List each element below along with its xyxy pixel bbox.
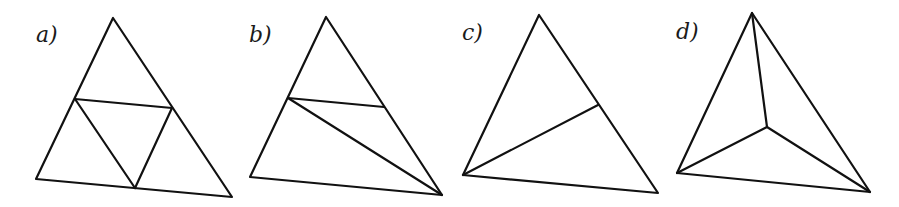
inner-segments-c [463,105,598,175]
outer-triangle-a [36,18,232,197]
inner-segments-d [677,13,870,192]
outer-triangle-b [250,17,442,195]
inner-segment [767,127,870,192]
figure-label-a: a) [36,22,58,47]
figure-a: a) [36,18,232,197]
inner-segment [135,108,172,188]
figure-label-c: c) [462,20,483,45]
figure-c: c) [462,15,658,193]
inner-segment [75,99,135,188]
diagram-canvas: a) b) c) d) [0,0,899,207]
inner-segment [288,98,384,107]
outer-triangle-d [677,13,870,192]
inner-segments-b [288,98,442,195]
inner-segment [75,99,172,108]
figure-d: d) [676,13,870,192]
figure-b: b) [249,17,442,195]
triangle-partitions-diagram: a) b) c) d) [0,0,899,207]
inner-segment [752,13,767,127]
inner-segments-a [75,99,172,188]
outer-triangle-c [463,15,658,193]
inner-segment [463,105,598,175]
inner-segment [288,98,442,195]
figure-label-d: d) [676,19,699,44]
inner-segment [677,127,767,173]
figure-label-b: b) [249,22,272,47]
